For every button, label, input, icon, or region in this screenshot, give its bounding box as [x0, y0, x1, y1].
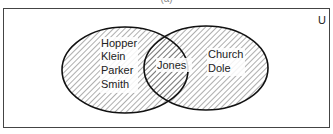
universe-label: U — [318, 14, 326, 26]
member-label: Klein — [101, 50, 125, 62]
member-label: Hopper — [101, 37, 137, 49]
intersection-label: Jones — [157, 59, 187, 71]
member-label: Parker — [101, 64, 134, 76]
venn-diagram: U Hopper Klein Parker Smith Jones Church… — [0, 0, 333, 134]
member-label: Dole — [208, 62, 231, 74]
member-label: Smith — [101, 78, 129, 90]
member-label: Church — [208, 48, 243, 60]
